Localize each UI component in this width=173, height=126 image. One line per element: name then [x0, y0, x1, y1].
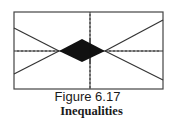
- calculator-graph: [0, 0, 173, 92]
- figure-title: Inequalities: [0, 104, 173, 119]
- figure-label: Figure 6.17: [0, 89, 173, 104]
